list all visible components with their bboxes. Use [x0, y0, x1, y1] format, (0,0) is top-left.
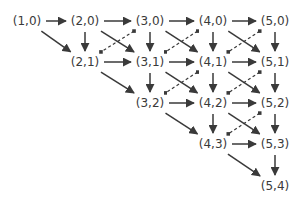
node-5-3: (5,3) [260, 137, 290, 151]
node-3-2: (3,2) [135, 96, 165, 110]
node-4-1: (4,1) [198, 55, 228, 69]
node-3-1: (3,1) [135, 55, 165, 69]
node-5-1: (5,1) [260, 55, 290, 69]
node-3-0: (3,0) [135, 14, 165, 28]
node-2-1: (2,1) [70, 55, 100, 69]
edge-4-3-to-5-4 [228, 154, 260, 176]
node-5-0: (5,0) [260, 14, 290, 28]
edge-2-1-to-3-2 [101, 72, 134, 93]
node-5-2: (5,2) [260, 96, 290, 110]
node-1-0: (1,0) [12, 14, 42, 28]
node-4-3: (4,3) [198, 137, 228, 151]
node-2-0: (2,0) [70, 14, 100, 28]
node-4-0: (4,0) [198, 14, 228, 28]
edge-1-0-to-2-1 [41, 31, 70, 52]
node-4-2: (4,2) [198, 96, 228, 110]
node-5-4: (5,4) [260, 179, 290, 193]
edge-3-2-to-4-3 [166, 113, 198, 134]
